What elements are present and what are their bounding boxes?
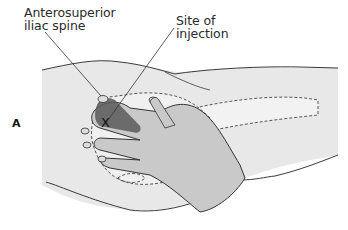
label-anterosuperior-iliac-spine: Anterosuperior iliac spine: [24, 6, 116, 32]
label-site-of-injection: Site of injection: [176, 14, 228, 40]
illustration: X: [0, 0, 348, 230]
fingernail: [83, 142, 91, 148]
fingernail: [98, 156, 106, 162]
fingernail: [81, 128, 89, 134]
panel-label: A: [12, 117, 20, 130]
fingernail: [98, 96, 108, 103]
injection-site-marker: X: [101, 115, 110, 130]
label-line: iliac spine: [24, 19, 116, 32]
label-line: injection: [176, 27, 228, 40]
